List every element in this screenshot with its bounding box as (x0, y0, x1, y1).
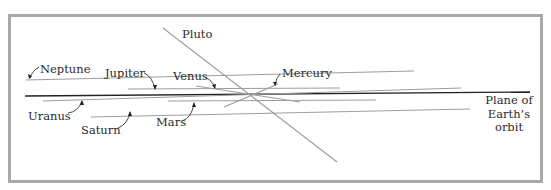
plane-label-line1: Plane of (485, 93, 533, 107)
mercury-label: Mercury (282, 66, 332, 80)
jupiter-label: Jupiter (104, 66, 145, 80)
plane-label-line2: Earth’s (488, 107, 530, 121)
uranus-label: Uranus (28, 109, 71, 123)
mars-orbit-line (168, 100, 376, 101)
saturn-label: Saturn (81, 123, 121, 137)
saturn-orbit-line (91, 109, 470, 117)
mars-arrowhead-icon (192, 102, 196, 107)
neptune-label: Neptune (40, 62, 91, 76)
pluto-label: Pluto (182, 27, 212, 41)
uranus-orbit-line (43, 88, 461, 101)
mars-label: Mars (156, 115, 186, 129)
uranus-arrowhead-icon (80, 100, 84, 105)
saturn-arrowhead-icon (128, 111, 132, 116)
plane-label-line3: orbit (495, 120, 523, 134)
jupiter-orbit-line (128, 88, 340, 89)
orbital-planes-diagram: Pluto Neptune Jupiter Venus Mercury Uran… (0, 0, 551, 190)
jupiter-leader-icon (144, 73, 155, 89)
venus-label: Venus (172, 69, 208, 83)
